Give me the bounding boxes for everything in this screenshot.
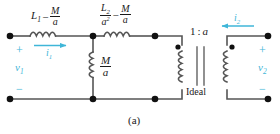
transformer-primary-coil — [178, 51, 182, 82]
terminal-dot-right-bottom — [265, 96, 272, 103]
terminal-dot-left-bottom — [7, 96, 14, 103]
minus-operator-1: − — [41, 12, 50, 23]
transformer-secondary-coil — [223, 51, 227, 82]
label-inductor-shunt: M a — [100, 55, 111, 79]
label-inductor-series-1: L1− M a — [31, 6, 60, 28]
label-L1: L1 — [31, 10, 41, 24]
wire-bottom-to-primary-bottom — [155, 90, 182, 99]
terminal-left-plus: + — [16, 44, 23, 56]
ratio-left-value: 1 — [190, 25, 196, 37]
circuit-figure: L1− M a L2 a2 − M a M a 1:a Ideal + v1 −… — [0, 0, 280, 134]
inductor-coil-series-2 — [104, 32, 130, 36]
minus-operator-2: − — [111, 10, 120, 21]
node-dots-group — [7, 33, 272, 103]
label-inductor-series-2: L2 a2 − M a — [100, 3, 131, 28]
fraction-M-over-a-shunt: M a — [100, 55, 111, 79]
wires-group — [10, 32, 268, 99]
ratio-colon: : — [196, 25, 203, 37]
terminal-dot-right-top — [265, 33, 272, 40]
terminal-right-voltage: v2 — [258, 62, 267, 76]
fraction-M-over-a-1: M a — [50, 6, 60, 28]
terminal-left-minus: − — [16, 83, 23, 95]
label-transformer-ratio: 1:a — [190, 26, 208, 37]
terminal-right-minus: − — [259, 83, 266, 95]
terminal-dot-left-top — [7, 33, 14, 40]
fraction-M-over-a-2: M a — [120, 4, 130, 26]
node-dot-b-bottom — [152, 96, 159, 103]
label-transformer-ideal: Ideal — [186, 87, 206, 97]
terminal-left-voltage: v1 — [15, 62, 24, 76]
ratio-right-value: a — [203, 25, 209, 37]
wire-node-b-to-primary-top — [155, 36, 182, 45]
fraction-L2-over-a2: L2 a2 — [100, 3, 111, 28]
node-dot-a-top — [90, 33, 97, 40]
node-dot-b-top — [152, 33, 159, 40]
frac-denominator-a-squared: a2 — [100, 16, 111, 28]
polarity-dot-primary — [175, 44, 180, 49]
label-current-i2: i2 — [234, 13, 240, 26]
label-current-i1: i1 — [46, 48, 52, 61]
terminal-right-plus: + — [259, 44, 266, 56]
inductor-coil-series-1 — [30, 32, 56, 36]
figure-caption: (a) — [128, 115, 140, 126]
polarity-dot-secondary — [229, 44, 234, 49]
inductor-coil-shunt — [89, 52, 93, 78]
node-dot-a-bottom — [90, 96, 97, 103]
